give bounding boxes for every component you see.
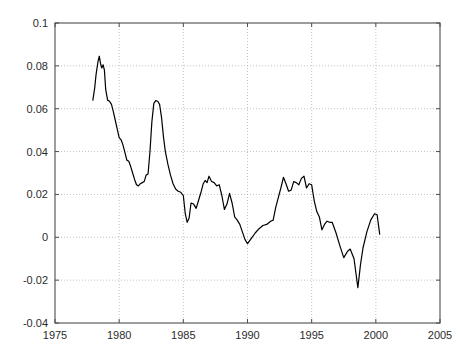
ytick-label-1: 0.08 — [8, 60, 48, 72]
ytick-label-2: 0.06 — [8, 103, 48, 115]
xtick-label-2: 1985 — [171, 329, 195, 341]
xtick-label-1: 1980 — [107, 329, 131, 341]
xtick-label-5: 2000 — [364, 329, 388, 341]
ytick-label-6: -0.02 — [8, 274, 48, 286]
figure-canvas: 0.1 0.08 0.06 0.04 0.02 0 -0.02 -0.04 19… — [0, 0, 471, 364]
ytick-label-4: 0.02 — [8, 188, 48, 200]
xtick-label-0: 1975 — [43, 329, 67, 341]
xtick-label-4: 1995 — [299, 329, 323, 341]
ytick-label-0: 0.1 — [8, 17, 48, 29]
xtick-label-3: 1990 — [235, 329, 259, 341]
ytick-label-3: 0.04 — [8, 146, 48, 158]
xtick-label-6: 2005 — [428, 329, 452, 341]
ytick-label-5: 0 — [8, 231, 48, 243]
line-chart-plot — [0, 0, 471, 364]
ytick-label-7: -0.04 — [8, 317, 48, 329]
